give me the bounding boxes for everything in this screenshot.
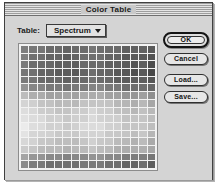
- color-swatch[interactable]: [122, 161, 129, 168]
- color-swatch[interactable]: [80, 131, 87, 138]
- color-swatch[interactable]: [89, 69, 96, 76]
- color-swatch[interactable]: [97, 61, 104, 68]
- color-swatch[interactable]: [105, 154, 112, 161]
- color-swatch[interactable]: [105, 100, 112, 107]
- color-swatch[interactable]: [148, 108, 155, 115]
- color-swatch[interactable]: [38, 77, 45, 84]
- color-swatch[interactable]: [38, 108, 45, 115]
- color-swatch[interactable]: [114, 115, 121, 122]
- color-swatch[interactable]: [46, 92, 53, 99]
- color-swatch[interactable]: [63, 146, 70, 153]
- color-swatch[interactable]: [55, 92, 62, 99]
- color-swatch[interactable]: [114, 54, 121, 61]
- color-swatch[interactable]: [55, 146, 62, 153]
- color-swatch[interactable]: [105, 131, 112, 138]
- color-swatch[interactable]: [55, 61, 62, 68]
- color-swatch[interactable]: [29, 123, 36, 130]
- color-swatch[interactable]: [38, 131, 45, 138]
- color-swatch[interactable]: [89, 123, 96, 130]
- color-swatch[interactable]: [55, 46, 62, 53]
- color-swatch[interactable]: [131, 46, 138, 53]
- color-swatch[interactable]: [97, 77, 104, 84]
- color-swatch[interactable]: [114, 92, 121, 99]
- color-swatch[interactable]: [114, 46, 121, 53]
- color-swatch[interactable]: [97, 69, 104, 76]
- color-swatch[interactable]: [89, 138, 96, 145]
- color-swatch[interactable]: [63, 46, 70, 53]
- color-swatch[interactable]: [122, 131, 129, 138]
- color-swatch[interactable]: [89, 61, 96, 68]
- color-swatch[interactable]: [89, 108, 96, 115]
- color-swatch[interactable]: [55, 138, 62, 145]
- color-swatch[interactable]: [131, 123, 138, 130]
- color-swatch[interactable]: [122, 123, 129, 130]
- color-swatch[interactable]: [46, 161, 53, 168]
- color-swatch[interactable]: [72, 46, 79, 53]
- color-swatch[interactable]: [97, 108, 104, 115]
- color-swatch[interactable]: [139, 131, 146, 138]
- color-swatch[interactable]: [29, 61, 36, 68]
- color-swatch[interactable]: [55, 161, 62, 168]
- color-swatch[interactable]: [89, 161, 96, 168]
- color-swatch[interactable]: [63, 100, 70, 107]
- color-swatch[interactable]: [46, 131, 53, 138]
- color-swatch[interactable]: [148, 131, 155, 138]
- color-swatch[interactable]: [29, 138, 36, 145]
- color-swatch[interactable]: [139, 138, 146, 145]
- color-swatch[interactable]: [105, 138, 112, 145]
- color-swatch[interactable]: [139, 54, 146, 61]
- color-swatch[interactable]: [72, 61, 79, 68]
- color-swatch[interactable]: [114, 69, 121, 76]
- color-swatch[interactable]: [46, 61, 53, 68]
- color-swatch[interactable]: [97, 123, 104, 130]
- color-swatch[interactable]: [80, 138, 87, 145]
- color-swatch[interactable]: [148, 161, 155, 168]
- color-swatch[interactable]: [29, 92, 36, 99]
- color-swatch[interactable]: [148, 77, 155, 84]
- color-swatch[interactable]: [89, 154, 96, 161]
- color-swatch[interactable]: [122, 146, 129, 153]
- color-swatch[interactable]: [21, 131, 28, 138]
- color-swatch[interactable]: [114, 123, 121, 130]
- color-swatch[interactable]: [38, 123, 45, 130]
- color-swatch[interactable]: [105, 161, 112, 168]
- color-swatch[interactable]: [38, 69, 45, 76]
- color-swatch[interactable]: [55, 69, 62, 76]
- color-swatch[interactable]: [21, 123, 28, 130]
- color-swatch[interactable]: [63, 77, 70, 84]
- color-swatch[interactable]: [80, 154, 87, 161]
- color-swatch[interactable]: [114, 131, 121, 138]
- color-swatch[interactable]: [131, 100, 138, 107]
- color-swatch[interactable]: [148, 138, 155, 145]
- color-swatch[interactable]: [131, 146, 138, 153]
- color-swatch[interactable]: [63, 69, 70, 76]
- color-swatch[interactable]: [72, 108, 79, 115]
- color-swatch[interactable]: [29, 84, 36, 91]
- color-swatch[interactable]: [105, 92, 112, 99]
- color-swatch[interactable]: [89, 46, 96, 53]
- color-swatch[interactable]: [63, 115, 70, 122]
- color-swatch[interactable]: [29, 54, 36, 61]
- color-swatch[interactable]: [89, 100, 96, 107]
- color-swatch-grid[interactable]: [21, 46, 155, 168]
- color-swatch[interactable]: [131, 77, 138, 84]
- color-swatch[interactable]: [122, 138, 129, 145]
- color-swatch[interactable]: [122, 46, 129, 53]
- color-swatch[interactable]: [97, 46, 104, 53]
- color-swatch[interactable]: [105, 108, 112, 115]
- color-swatch[interactable]: [80, 69, 87, 76]
- color-swatch[interactable]: [105, 146, 112, 153]
- color-swatch[interactable]: [80, 84, 87, 91]
- color-swatch[interactable]: [21, 61, 28, 68]
- color-swatch[interactable]: [21, 146, 28, 153]
- color-swatch[interactable]: [29, 108, 36, 115]
- color-swatch[interactable]: [148, 115, 155, 122]
- color-swatch[interactable]: [89, 115, 96, 122]
- color-swatch[interactable]: [139, 92, 146, 99]
- color-swatch[interactable]: [80, 46, 87, 53]
- color-swatch[interactable]: [46, 54, 53, 61]
- color-swatch[interactable]: [148, 46, 155, 53]
- color-swatch[interactable]: [80, 108, 87, 115]
- color-swatch[interactable]: [122, 115, 129, 122]
- color-grid-well[interactable]: [18, 43, 158, 171]
